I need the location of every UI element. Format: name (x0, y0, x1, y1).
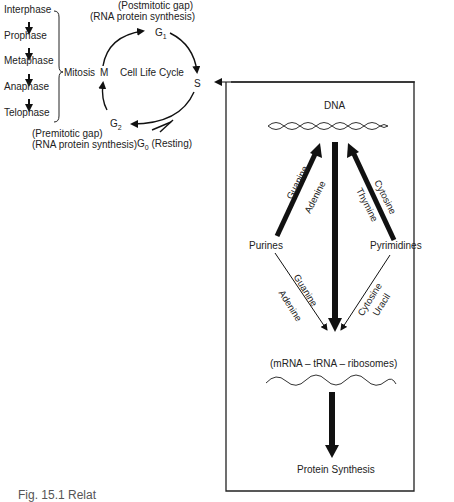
node-g0: G0 (Resting) (137, 138, 192, 153)
mitosis-label: Mitosis (64, 67, 95, 78)
phase-metaphase: Metaphase (4, 55, 53, 66)
node-g2: G2 (110, 118, 122, 133)
pyrimidines-label: Pyrimidines (370, 240, 422, 251)
dna-helix (268, 123, 388, 130)
node-s: S (194, 78, 201, 89)
figure-caption: Fig. 15.1 Relat (18, 488, 96, 502)
purines-label: Purines (249, 240, 283, 251)
rna-strand (266, 375, 396, 385)
phase-anaphase: Anaphase (4, 81, 49, 92)
dna-label: DNA (324, 100, 345, 111)
node-m: M (100, 67, 108, 78)
phase-interphase: Interphase (4, 4, 51, 15)
protein-synthesis-label: Protein Synthesis (297, 464, 375, 475)
phase-prophase: Prophase (4, 30, 47, 41)
cell-cycle-label: Cell Life Cycle (120, 67, 184, 78)
node-g1: G1 (155, 27, 167, 42)
rna-label: (mRNA – tRNA – ribosomes) (270, 358, 397, 369)
premitotic-synthesis-label: (RNA protein synthesis) (32, 139, 137, 150)
cell-cycle-arcs (103, 31, 198, 132)
phase-telophase: Telophase (4, 107, 50, 118)
mitosis-brace (54, 11, 63, 122)
premitotic-gap-label: (Premitotic gap) (32, 128, 103, 139)
postmitotic-synthesis-label: (RNA protein synthesis) (90, 11, 195, 22)
postmitotic-gap-label: (Postmitotic gap) (118, 0, 193, 11)
